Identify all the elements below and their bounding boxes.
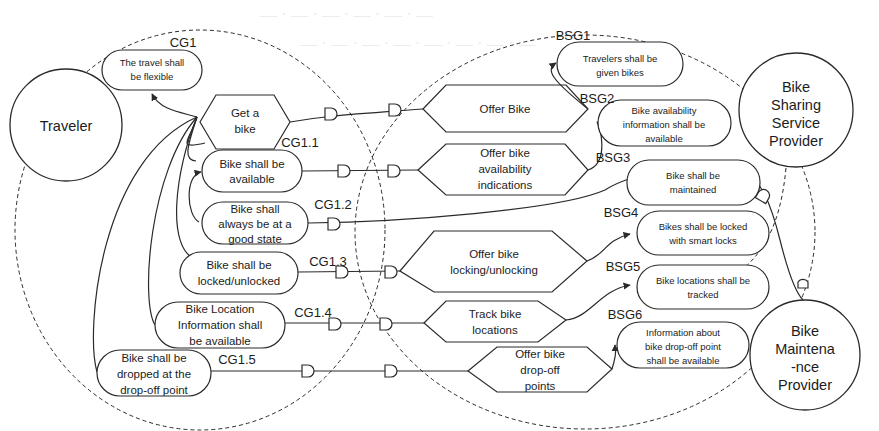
svg-text:Bike shall be: Bike shall be	[206, 259, 271, 271]
svg-text:tracked: tracked	[687, 289, 718, 300]
task-offer-bike-availability-indications[interactable]: Offer bike availability indications	[418, 144, 588, 195]
svg-text:locking/unlocking: locking/unlocking	[450, 264, 538, 276]
actor-traveler[interactable]: Traveler	[10, 69, 122, 181]
svg-text:Offer bike: Offer bike	[515, 348, 565, 360]
svg-text:Offer bike: Offer bike	[480, 147, 530, 159]
svg-text:good state: good state	[228, 233, 282, 245]
svg-text:indications: indications	[478, 179, 533, 191]
task-track-bike-locations[interactable]: Track bike locations	[424, 301, 566, 342]
actor-bike-maintenance-provider[interactable]: Bike Maintena -nce Provider	[750, 300, 860, 410]
svg-text:Bike shall be: Bike shall be	[121, 352, 186, 364]
svg-text:Bike: Bike	[782, 79, 810, 95]
svg-text:Get a: Get a	[231, 107, 260, 119]
svg-text:locations: locations	[472, 324, 518, 336]
svg-text:be flexible: be flexible	[131, 71, 174, 82]
svg-text:The travel shall: The travel shall	[120, 57, 184, 68]
svg-text:BSG6: BSG6	[608, 307, 643, 322]
goal-bsg1[interactable]: Travelers shall be given bikes BSG1	[556, 28, 683, 86]
goal-cg1-3[interactable]: Bike shall be locked/unlocked CG1.3	[180, 252, 347, 294]
svg-text:Bikes shall be locked: Bikes shall be locked	[659, 221, 748, 232]
svg-text:BSG1: BSG1	[556, 28, 591, 43]
svg-text:Bike: Bike	[791, 323, 819, 339]
actor-bike-sharing-service-provider[interactable]: Bike Sharing Service Provider	[739, 53, 853, 167]
goal-label: CG1	[170, 35, 197, 50]
svg-text:Service: Service	[772, 115, 820, 131]
svg-text:BSG5: BSG5	[606, 259, 641, 274]
svg-text:Traveler: Traveler	[40, 118, 93, 134]
svg-text:information shall be: information shall be	[623, 119, 705, 130]
svg-text:maintained: maintained	[670, 184, 716, 195]
svg-text:bike drop-off point: bike drop-off point	[645, 341, 721, 352]
svg-text:BSG4: BSG4	[604, 205, 639, 220]
svg-text:Bike Location: Bike Location	[185, 303, 254, 315]
goal-dependency-diagram: Traveler Bike Sharing Service Provider B…	[0, 0, 879, 431]
svg-text:Offer Bike: Offer Bike	[480, 103, 531, 115]
goal-bsg5[interactable]: Bike locations shall be tracked BSG5	[606, 259, 769, 309]
svg-text:-nce: -nce	[791, 359, 819, 375]
svg-text:Sharing: Sharing	[771, 97, 821, 113]
svg-text:Bike shall: Bike shall	[230, 203, 279, 215]
goal-bsg2[interactable]: Bike availability information shall be a…	[580, 91, 731, 146]
svg-text:with smart locks: with smart locks	[668, 235, 737, 246]
svg-text:Bike locations shall be: Bike locations shall be	[656, 275, 750, 286]
svg-text:Information about: Information about	[646, 327, 720, 338]
svg-text:bike: bike	[234, 123, 255, 135]
task-offer-bike-drop-off-points[interactable]: Offer bike drop-off points	[468, 347, 612, 392]
task-get-a-bike[interactable]: Get a bike	[200, 95, 290, 149]
svg-text:drop-off point: drop-off point	[120, 384, 188, 396]
svg-text:CG1.1: CG1.1	[281, 135, 319, 150]
svg-text:Bike shall be: Bike shall be	[219, 158, 284, 170]
task-offer-bike-locking-unlocking[interactable]: Offer bike locking/unlocking	[400, 231, 587, 292]
svg-text:dropped at the: dropped at the	[117, 368, 191, 380]
svg-text:Bike availability: Bike availability	[632, 105, 697, 116]
svg-text:locked/unlocked: locked/unlocked	[198, 275, 280, 287]
svg-text:given bikes: given bikes	[596, 67, 644, 78]
svg-text:Provider: Provider	[778, 377, 832, 393]
goal-cg1[interactable]: The travel shall be flexible CG1	[102, 35, 202, 90]
svg-text:always be at a: always be at a	[218, 218, 292, 230]
svg-text:Track bike: Track bike	[469, 308, 522, 320]
goal-cg1-5[interactable]: Bike shall be dropped at the drop-off po…	[97, 350, 256, 396]
svg-text:Bike shall be: Bike shall be	[666, 170, 720, 181]
svg-text:drop-off: drop-off	[520, 364, 560, 376]
goal-bsg3[interactable]: Bike shall be maintained BSG3	[596, 150, 760, 205]
goal-bsg6[interactable]: Information about bike drop-off point sh…	[608, 307, 749, 368]
svg-text:availability: availability	[478, 163, 531, 175]
svg-text:available: available	[645, 133, 683, 144]
svg-text:points: points	[525, 380, 556, 392]
svg-text:BSG2: BSG2	[580, 91, 615, 106]
svg-text:Maintena: Maintena	[775, 341, 836, 357]
svg-text:CG1.4: CG1.4	[294, 305, 332, 320]
svg-text:CG1.2: CG1.2	[314, 197, 352, 212]
svg-text:CG1.5: CG1.5	[218, 352, 256, 367]
svg-text:shall be available: shall be available	[647, 355, 720, 366]
svg-text:Information shall: Information shall	[178, 319, 262, 331]
task-offer-bike[interactable]: Offer Bike	[423, 85, 588, 132]
goal-bsg4[interactable]: Bikes shall be locked with smart locks B…	[604, 205, 769, 255]
goal-cg1-4[interactable]: Bike Location Information shall be avail…	[155, 302, 332, 348]
svg-text:Provider: Provider	[769, 133, 823, 149]
svg-text:available: available	[229, 173, 274, 185]
svg-text:BSG3: BSG3	[596, 150, 631, 165]
svg-text:be available: be available	[189, 335, 250, 347]
svg-text:Travelers shall be: Travelers shall be	[583, 53, 658, 64]
svg-text:Offer bike: Offer bike	[469, 248, 519, 260]
